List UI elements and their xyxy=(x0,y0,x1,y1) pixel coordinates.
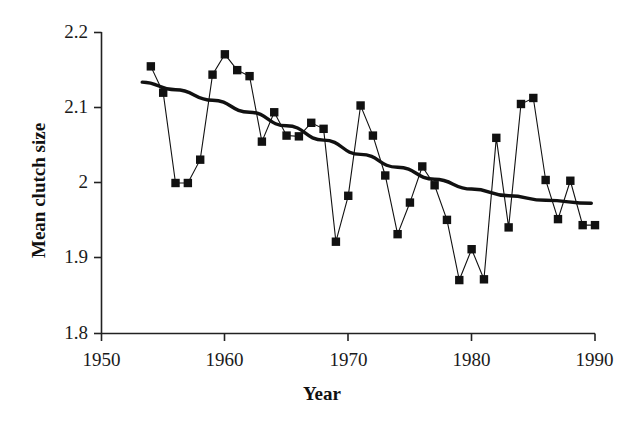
x-tick-label-1970: 1970 xyxy=(318,349,379,371)
data-point xyxy=(258,137,266,145)
x-tick-label-1950: 1950 xyxy=(71,349,132,371)
x-tick-label-1960: 1960 xyxy=(194,349,255,371)
data-point xyxy=(344,192,352,200)
data-markers xyxy=(147,50,600,284)
y-tick-label-1.8: 1.8 xyxy=(40,322,88,344)
y-tick-label-2.1: 2.1 xyxy=(40,96,88,118)
data-point xyxy=(393,230,401,238)
data-point xyxy=(147,62,155,70)
data-point xyxy=(480,275,488,283)
data-point xyxy=(208,70,216,78)
data-point xyxy=(245,72,253,80)
data-point xyxy=(492,134,500,142)
x-axis-ticks xyxy=(102,334,596,342)
data-point xyxy=(282,131,290,139)
chart-container: 2.2 2.1 2 1.9 1.8 1950 1960 1970 1980 19… xyxy=(0,0,644,423)
data-series-layer xyxy=(142,50,599,284)
data-point xyxy=(541,176,549,184)
x-tick-label-1990: 1990 xyxy=(564,349,625,371)
x-tick-label-1980: 1980 xyxy=(441,349,502,371)
data-point xyxy=(529,94,537,102)
data-point xyxy=(443,216,451,224)
data-point xyxy=(184,179,192,187)
data-point xyxy=(381,171,389,179)
data-point xyxy=(307,119,315,127)
data-point xyxy=(332,238,340,246)
data-point xyxy=(467,245,475,253)
data-point xyxy=(270,108,278,116)
data-point xyxy=(295,132,303,140)
data-point xyxy=(418,162,426,170)
data-point xyxy=(369,131,377,139)
data-point xyxy=(591,221,599,229)
y-tick-label-2.2: 2.2 xyxy=(40,21,88,43)
x-axis-title: Year xyxy=(272,383,372,405)
y-axis-ticks xyxy=(94,33,102,334)
data-point xyxy=(455,276,463,284)
data-point xyxy=(406,198,414,206)
data-point xyxy=(566,177,574,185)
data-point xyxy=(233,66,241,74)
y-axis-title: Mean clutch size xyxy=(28,123,50,258)
data-point xyxy=(504,223,512,231)
data-point xyxy=(196,155,204,163)
data-point xyxy=(221,50,229,58)
data-line xyxy=(151,54,595,280)
data-point xyxy=(517,100,525,108)
data-point xyxy=(171,179,179,187)
data-point xyxy=(319,125,327,133)
data-point xyxy=(578,221,586,229)
data-point xyxy=(554,215,562,223)
data-point xyxy=(356,101,364,109)
data-point xyxy=(430,181,438,189)
